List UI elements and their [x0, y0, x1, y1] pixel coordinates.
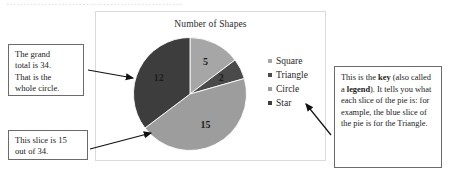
- legend-swatch-triangle: [268, 73, 272, 77]
- legend-item-circle[interactable]: Circle: [268, 82, 326, 95]
- key-text-bold-key: key: [378, 73, 391, 82]
- key-explanation-text: This is the key (also called a legend). …: [341, 72, 436, 130]
- legend-swatch-square: [268, 59, 272, 63]
- key-explanation-callout: This is the key (also called a legend). …: [334, 66, 442, 168]
- grand-total-line-4: whole circle.: [15, 83, 78, 94]
- pie-slices: [133, 38, 246, 151]
- chart-legend: Square Triangle Circle Star: [268, 54, 326, 110]
- pie-label-triangle: 2: [219, 72, 224, 83]
- pie-chart: 521512: [133, 37, 247, 151]
- legend-label-circle: Circle: [276, 84, 299, 94]
- legend-label-square: Square: [276, 56, 302, 66]
- slice-value-callout: This slice is 15 out of 34.: [8, 130, 88, 160]
- grand-total-line-1: The grand: [15, 49, 78, 60]
- page-top-cutoff-text: ……………………………………………: [6, 0, 226, 8]
- key-text-part-1: This is the: [341, 73, 378, 82]
- legend-swatch-star: [268, 101, 272, 105]
- legend-label-triangle: Triangle: [276, 70, 308, 80]
- slice-value-line-1: This slice is 15: [15, 135, 82, 146]
- slice-value-line-2: out of 34.: [15, 146, 82, 157]
- legend-label-star: Star: [276, 98, 291, 108]
- legend-item-triangle[interactable]: Triangle: [268, 68, 326, 81]
- pie-label-square: 5: [203, 56, 208, 67]
- legend-swatch-circle: [268, 87, 272, 91]
- key-text-bold-legend: legend: [347, 85, 370, 94]
- grand-total-line-3: That is the: [15, 72, 78, 83]
- pie-svg: 521512: [133, 37, 247, 151]
- pie-chart-container: Number of Shapes 521512 Square Triangle …: [95, 11, 326, 161]
- chart-title: Number of Shapes: [96, 19, 325, 29]
- pie-label-circle: 15: [201, 119, 211, 130]
- pie-label-star: 12: [154, 72, 164, 83]
- legend-item-square[interactable]: Square: [268, 54, 326, 67]
- legend-item-star[interactable]: Star: [268, 96, 326, 109]
- grand-total-callout: The grand total is 34. That is the whole…: [8, 44, 84, 96]
- grand-total-line-2: total is 34.: [15, 60, 78, 71]
